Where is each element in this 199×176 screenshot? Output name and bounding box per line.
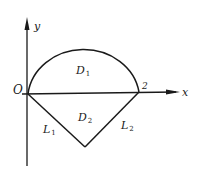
x-axis <box>22 92 176 94</box>
line-l1 <box>28 94 85 147</box>
x-axis-label: x <box>182 86 189 99</box>
diagram-canvas: y x O 2 D1 D2 L1 L2 <box>0 0 199 176</box>
line-l2 <box>85 92 139 147</box>
line-l2-label: L2 <box>120 119 134 133</box>
y-axis-arrow-icon <box>25 17 30 30</box>
point-2-label: 2 <box>141 81 148 91</box>
origin-label: O <box>13 83 23 97</box>
region-d2-label: D2 <box>77 111 92 125</box>
x-axis-arrow-icon <box>166 90 180 95</box>
region-d1-label: D1 <box>75 64 90 78</box>
line-l1-label: L1 <box>42 123 56 137</box>
y-axis-label: y <box>33 20 41 33</box>
